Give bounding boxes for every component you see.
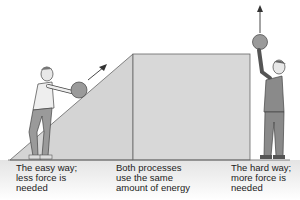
platform-block (133, 54, 250, 160)
caption-easy-way: The easy way; less force is needed (16, 163, 106, 193)
caption-same-energy: Both processes use the same amount of en… (116, 163, 206, 193)
up-ramp-arrow-icon (88, 64, 107, 80)
straight-up-arrow-icon (257, 5, 263, 33)
caption-line: needed (231, 183, 300, 193)
right-person (259, 50, 286, 159)
caption-line: amount of energy (116, 183, 206, 193)
caption-line: needed (16, 183, 106, 193)
ramp (10, 54, 133, 160)
left-ball (71, 82, 87, 98)
caption-hard-way: The hard way; more force is needed (231, 163, 300, 193)
right-ball (253, 35, 268, 50)
